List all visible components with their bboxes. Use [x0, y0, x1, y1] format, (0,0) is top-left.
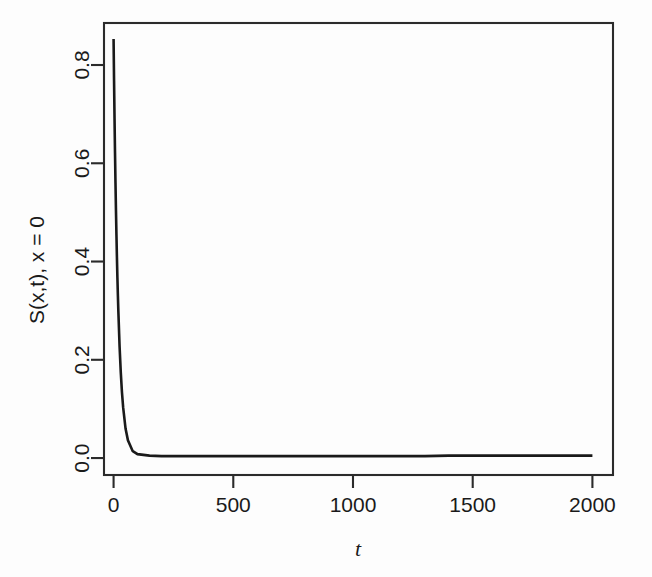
plot-frame-box	[104, 23, 613, 475]
y-tick-label: 0.8	[71, 50, 94, 79]
y-tick-label: 0.0	[71, 443, 94, 472]
y-tick-label: 0.4	[71, 247, 94, 277]
data-series-line	[114, 39, 593, 456]
y-tick-label: 0.2	[71, 345, 94, 374]
x-axis-title: t	[355, 536, 362, 561]
y-tick-label: 0.6	[71, 149, 94, 178]
x-tick-label: 2000	[569, 493, 616, 516]
x-axis-tick-labels: 0500100015002000	[108, 493, 616, 516]
y-axis-title: S(x,t), x = 0	[25, 216, 48, 324]
x-tick-label: 500	[216, 493, 251, 516]
y-axis-tick-labels: 0.00.20.40.60.8	[71, 50, 94, 472]
x-tick-label: 1500	[449, 493, 496, 516]
x-tick-label: 1000	[330, 493, 377, 516]
x-tick-label: 0	[108, 493, 120, 516]
figure-container: 0500100015002000 0.00.20.40.60.8 S(x,t),…	[0, 0, 652, 577]
chart-plot: 0500100015002000 0.00.20.40.60.8 S(x,t),…	[0, 0, 652, 577]
x-axis-ticks	[114, 476, 593, 488]
